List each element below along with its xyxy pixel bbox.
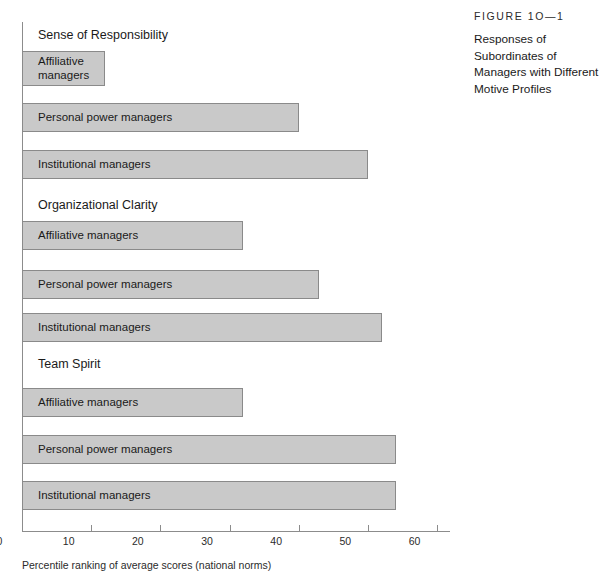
bar-clarity-institutional: Institutional managers	[22, 313, 382, 342]
bar-team-spirit-institutional: Institutional managers	[22, 481, 396, 510]
x-tick-label-0: 0	[0, 535, 15, 547]
figure-caption: FIGURE 1O—1 Responses of Subordinates of…	[474, 10, 609, 97]
bar-label: Personal power managers	[38, 443, 172, 457]
x-tick-0	[22, 525, 23, 531]
x-tick-label-20: 20	[108, 535, 153, 547]
x-tick-label-50: 50	[315, 535, 360, 547]
bar-team-spirit-personal-power: Personal power managers	[22, 435, 396, 464]
x-tick-label-60: 60	[385, 535, 430, 547]
x-tick-20	[160, 525, 161, 531]
group-heading-sense-of-responsibility: Sense of Responsibility	[38, 28, 168, 42]
x-tick-10	[91, 525, 92, 531]
bar-label: Personal power managers	[38, 278, 172, 292]
group-heading-team-spirit: Team Spirit	[38, 357, 101, 371]
x-axis-line	[22, 531, 450, 532]
bar-sense-personal-power: Personal power managers	[22, 103, 299, 132]
bar-label: Affiliative managers	[38, 55, 89, 82]
bar-chart: Sense of Responsibility Organizational C…	[0, 0, 470, 583]
bar-clarity-affiliative: Affiliative managers	[22, 221, 243, 250]
figure-title: Responses of Subordinates of Managers wi…	[474, 31, 609, 97]
x-tick-40	[299, 525, 300, 531]
figure-number: FIGURE 1O—1	[474, 10, 609, 22]
x-axis-title: Percentile ranking of average scores (na…	[22, 559, 271, 571]
bar-label: Institutional managers	[38, 489, 151, 503]
x-tick-label-40: 40	[246, 535, 291, 547]
bar-label: Personal power managers	[38, 111, 172, 125]
x-tick-label-30: 30	[177, 535, 222, 547]
bar-sense-affiliative: Affiliative managers	[22, 51, 105, 86]
bar-label: Affiliative managers	[38, 396, 138, 410]
bar-clarity-personal-power: Personal power managers	[22, 270, 319, 299]
bar-sense-institutional: Institutional managers	[22, 150, 368, 179]
x-tick-50	[368, 525, 369, 531]
x-tick-label-10: 10	[39, 535, 84, 547]
bar-label: Affiliative managers	[38, 229, 138, 243]
bar-label: Institutional managers	[38, 158, 151, 172]
x-tick-30	[230, 525, 231, 531]
group-heading-organizational-clarity: Organizational Clarity	[38, 198, 158, 212]
x-tick-60	[437, 525, 438, 531]
bar-label: Institutional managers	[38, 321, 151, 335]
bar-team-spirit-affiliative: Affiliative managers	[22, 388, 243, 417]
